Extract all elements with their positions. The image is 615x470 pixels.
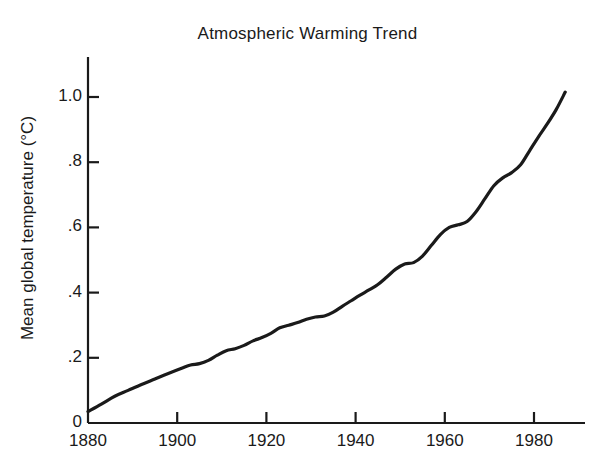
- y-tick-label: 1.0: [36, 86, 82, 106]
- x-tick-label: 1940: [321, 431, 391, 451]
- y-tick-label: 0: [36, 412, 82, 432]
- y-tick-label: .4: [36, 282, 82, 302]
- x-tick-label: 1980: [499, 431, 569, 451]
- x-tick-label: 1880: [53, 431, 123, 451]
- x-tick-label: 1920: [231, 431, 301, 451]
- axis-lines: [88, 57, 585, 423]
- y-tick-label: .6: [36, 216, 82, 236]
- y-tick-label: .2: [36, 347, 82, 367]
- x-tick-label: 1960: [410, 431, 480, 451]
- x-tick-label: 1900: [142, 431, 212, 451]
- y-tick-label: .8: [36, 151, 82, 171]
- y-axis-ticks: [88, 97, 99, 358]
- chart-container: Atmospheric Warming Trend Mean global te…: [0, 0, 615, 470]
- plot-area: [0, 0, 615, 470]
- x-axis-ticks: [177, 412, 534, 423]
- temperature-line: [88, 92, 565, 411]
